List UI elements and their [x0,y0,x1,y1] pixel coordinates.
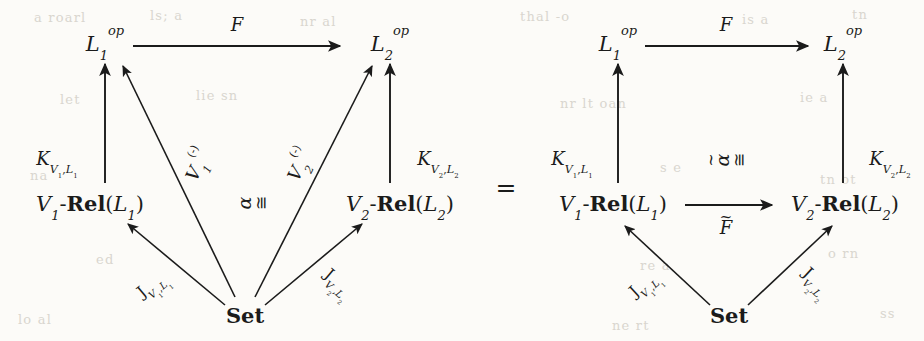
right-cell-alpha-tilde-iso: ~α ≅ [713,153,748,167]
left-arrow-V2-power [255,66,372,297]
left-node-L2-op: L2op [371,34,409,55]
left-node-L1-op: L1op [86,34,124,55]
left-node-Set: Set [226,305,264,326]
right-node-Set: Set [710,305,748,326]
left-cell-alpha-iso: α ≅ [235,196,270,210]
right-node-L2-op: L2op [824,34,862,55]
right-label-K-V1-L1: KV1,L1 [551,150,592,171]
left-node-V1-Rel-L1: V1-Rel(L1) [36,193,144,215]
right-node-L1-op: L1op [599,34,637,55]
right-label-K-V2-L2: KV2,L2 [869,150,910,171]
diagram-equals-sign: = [496,175,517,200]
right-label-F-tilde: ~F [720,219,733,237]
left-label-K-V1-L1: KV1,L1 [36,150,77,171]
right-node-V1-Rel-L1: V1-Rel(L1) [559,193,667,215]
left-node-V2-Rel-L2: V2-Rel(L2) [346,193,454,215]
commutative-diagram-figure: a roarlls; anr althal -ois atnletlie snn… [0,0,924,341]
left-arrow-V1-power [123,66,235,297]
right-node-V2-Rel-L2: V2-Rel(L2) [791,193,899,215]
left-label-F: F [231,16,244,34]
right-label-F: F [720,16,733,34]
left-label-K-V2-L2: KV2,L2 [417,150,458,171]
